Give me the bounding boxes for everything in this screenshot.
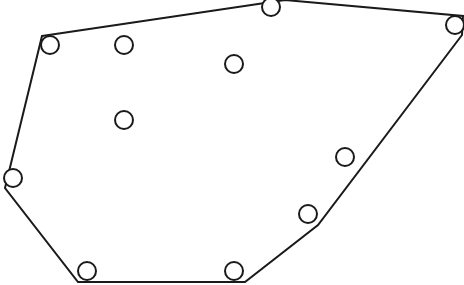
hull-point-circle bbox=[225, 262, 243, 280]
interior-point-circle bbox=[115, 36, 133, 54]
hull-point-circle bbox=[446, 16, 464, 34]
convex-hull-diagram bbox=[0, 0, 464, 285]
hull-point-circle bbox=[41, 36, 59, 54]
hull-polygon bbox=[5, 0, 463, 282]
hull-point-circle bbox=[4, 169, 22, 187]
interior-point-circle bbox=[225, 55, 243, 73]
interior-point-circle bbox=[115, 111, 133, 129]
hull-point-circle bbox=[78, 262, 96, 280]
interior-point-circle bbox=[336, 148, 354, 166]
point-set bbox=[4, 0, 464, 280]
hull-point-circle bbox=[299, 205, 317, 223]
hull-point-circle bbox=[262, 0, 280, 16]
diagram-canvas bbox=[0, 0, 464, 285]
